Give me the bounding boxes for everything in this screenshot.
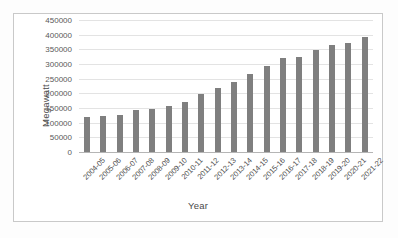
bar-slot	[112, 20, 128, 152]
bar[interactable]	[345, 43, 351, 152]
bar[interactable]	[231, 82, 237, 152]
bar[interactable]	[280, 58, 286, 152]
bar[interactable]	[215, 88, 221, 152]
bar[interactable]	[182, 102, 188, 152]
y-axis-ticks: 4500004000003500003000002500002000001500…	[35, 20, 75, 152]
y-axis-tick-label: 50000	[50, 133, 72, 142]
y-axis-tick-label: 350000	[45, 45, 72, 54]
x-tick-slot: 2019-20	[324, 154, 340, 200]
x-tick-slot: 2009-10	[161, 154, 177, 200]
bar-slot	[259, 20, 275, 152]
bar[interactable]	[117, 115, 123, 152]
bar-slot	[357, 20, 373, 152]
bar-series	[79, 20, 373, 152]
x-tick-slot: 2010-11	[177, 154, 193, 200]
x-tick-slot: 2021-22	[357, 154, 373, 200]
x-tick-slot: 2017-18	[291, 154, 307, 200]
x-tick-slot: 2011-12	[193, 154, 209, 200]
y-axis-tick-label: 0	[68, 148, 72, 157]
bar[interactable]	[313, 50, 319, 152]
bar-slot	[308, 20, 324, 152]
bar-slot	[340, 20, 356, 152]
bar-slot	[324, 20, 340, 152]
x-tick-slot: 2018-19	[308, 154, 324, 200]
bar[interactable]	[149, 109, 155, 152]
chart-figure: Megawatt Year 45000040000035000030000025…	[0, 0, 398, 238]
x-tick-slot: 2008-09	[144, 154, 160, 200]
x-tick-slot: 2014-15	[242, 154, 258, 200]
bar[interactable]	[100, 116, 106, 152]
plot-area	[79, 20, 373, 153]
plot-wrapper: 4500004000003500003000002500002000001500…	[35, 20, 373, 170]
bar-slot	[177, 20, 193, 152]
bar[interactable]	[84, 117, 90, 152]
bar[interactable]	[166, 106, 172, 152]
bar-slot	[144, 20, 160, 152]
x-tick-slot: 2004-05	[79, 154, 95, 200]
y-axis-tick-label: 200000	[45, 89, 72, 98]
bar-slot	[210, 20, 226, 152]
x-axis-ticks: 2004-052005-062006-072007-082008-092009-…	[79, 154, 373, 200]
bar-slot	[161, 20, 177, 152]
x-tick-slot: 2007-08	[128, 154, 144, 200]
bar-slot	[79, 20, 95, 152]
x-tick-slot: 2016-17	[275, 154, 291, 200]
bar-slot	[95, 20, 111, 152]
bar-slot	[275, 20, 291, 152]
y-axis-tick-label: 150000	[45, 104, 72, 113]
x-tick-slot: 2013-14	[226, 154, 242, 200]
bar[interactable]	[247, 74, 253, 152]
chart-frame: Megawatt Year 45000040000035000030000025…	[13, 13, 383, 222]
x-tick-slot: 2015-16	[259, 154, 275, 200]
x-tick-slot: 2012-13	[210, 154, 226, 200]
y-axis-tick-label: 100000	[45, 118, 72, 127]
x-axis-tick-label: 2021-22	[359, 156, 385, 182]
y-axis-tick-label: 250000	[45, 74, 72, 83]
y-axis-tick-label: 450000	[45, 16, 72, 25]
x-tick-slot: 2005-06	[95, 154, 111, 200]
bar[interactable]	[133, 110, 139, 152]
bar[interactable]	[329, 45, 335, 152]
bar[interactable]	[264, 66, 270, 152]
x-tick-slot: 2006-07	[112, 154, 128, 200]
bar-slot	[242, 20, 258, 152]
y-axis-tick-label: 300000	[45, 60, 72, 69]
y-axis-tick-label: 400000	[45, 30, 72, 39]
bar-slot	[291, 20, 307, 152]
bar-slot	[226, 20, 242, 152]
bar[interactable]	[198, 94, 204, 152]
bar[interactable]	[296, 57, 302, 152]
x-tick-slot: 2020-21	[340, 154, 356, 200]
bar[interactable]	[362, 37, 368, 152]
bar-slot	[128, 20, 144, 152]
bar-slot	[193, 20, 209, 152]
x-axis-title: Year	[14, 200, 382, 211]
